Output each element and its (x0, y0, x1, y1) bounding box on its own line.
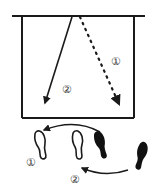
footwork-label-1: ① (26, 157, 36, 168)
footwork-label-2: ② (70, 174, 80, 185)
path-2-label: ② (62, 84, 72, 95)
filled-footprint-2 (132, 141, 149, 171)
footwork-arrow-2 (82, 168, 128, 174)
path-1-label: ① (111, 56, 121, 67)
diagram-canvas (0, 0, 156, 196)
outline-footprint-2 (72, 130, 85, 159)
court-box (12, 16, 145, 118)
footwork-arrow-1 (44, 124, 100, 132)
filled-footprint-1 (92, 130, 109, 160)
